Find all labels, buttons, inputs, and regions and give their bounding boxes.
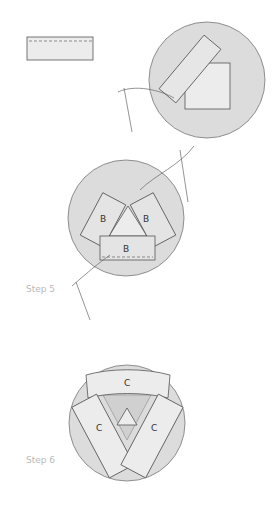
- needle: [124, 88, 132, 132]
- step5-circle-group: B B B: [68, 146, 194, 320]
- step4-circle-group: [118, 22, 265, 138]
- piece-label-b-right: B: [143, 214, 149, 224]
- needle: [180, 150, 188, 202]
- quilt-diagram: B B B Step 5 C C C Step 6: [0, 0, 280, 508]
- step-6-label: Step 6: [26, 455, 55, 465]
- needle: [76, 282, 90, 320]
- step-5-label: Step 5: [26, 284, 55, 294]
- piece-label-b-bottom: B: [123, 244, 129, 254]
- step6-circle-group: C C C: [69, 365, 185, 481]
- piece-label-c-left: C: [96, 423, 102, 433]
- piece-label-c-right: C: [151, 423, 157, 433]
- piece-label-c-top: C: [124, 378, 130, 388]
- piece-label-b-left: B: [100, 214, 106, 224]
- strip-piece: [27, 37, 93, 60]
